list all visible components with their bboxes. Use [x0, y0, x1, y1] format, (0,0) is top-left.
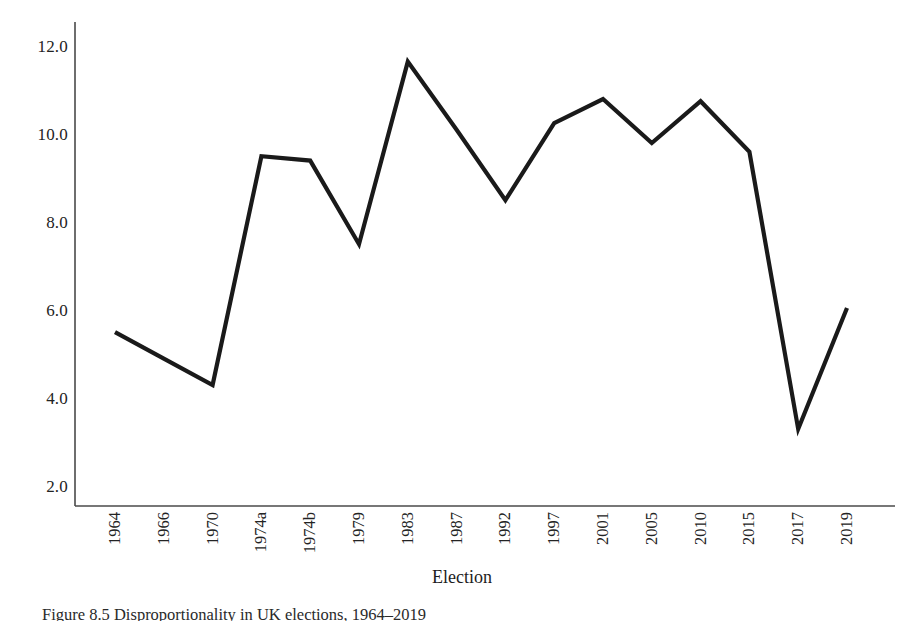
x-tick-label: 1992 — [497, 512, 514, 545]
x-tick-label: 1966 — [156, 512, 173, 545]
figure-container: 2.04.06.08.010.012.0 1964196619701974a19… — [0, 0, 924, 621]
x-tick-label: 2005 — [644, 512, 661, 545]
x-tick-label: 1964 — [107, 512, 124, 545]
x-tick-label: 1979 — [351, 512, 368, 545]
x-tick-label: 2010 — [692, 512, 709, 545]
x-tick-label: 1983 — [400, 512, 417, 545]
x-tick-label: 1970 — [204, 512, 221, 545]
x-tick-label: 1974a — [253, 512, 270, 552]
y-tick-label: 6.0 — [46, 302, 68, 319]
data-series-line — [115, 62, 847, 429]
y-tick-label: 2.0 — [46, 478, 68, 495]
x-tick-label: 1974b — [302, 512, 319, 553]
y-tick-label: 4.0 — [46, 390, 68, 407]
x-tick-label: 2019 — [839, 512, 856, 545]
chart-axes — [75, 22, 895, 506]
figure-caption: Figure 8.5 Disproportionality in UK elec… — [42, 604, 892, 621]
x-tick-label: 2017 — [790, 512, 807, 545]
x-tick-label: 2001 — [595, 512, 612, 545]
x-axis-title: Election — [0, 567, 924, 588]
x-axis-tick-labels: 1964196619701974a1974b197919831987199219… — [0, 512, 924, 574]
x-tick-label: 1997 — [546, 512, 563, 545]
x-tick-label: 2015 — [741, 512, 758, 545]
x-tick-label: 1987 — [448, 512, 465, 545]
y-tick-label: 10.0 — [37, 126, 68, 143]
y-tick-label: 12.0 — [37, 38, 68, 55]
y-tick-label: 8.0 — [46, 214, 68, 231]
